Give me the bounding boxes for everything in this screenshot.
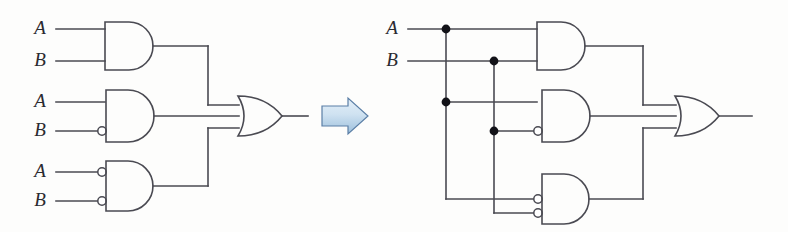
and-gate-shape [105, 22, 153, 70]
or-gate-shape [238, 96, 282, 136]
invert-bubble-icon [534, 127, 542, 135]
right-arrow-icon [322, 98, 368, 134]
invert-bubble-icon [98, 127, 106, 135]
left-gate-or [238, 96, 308, 136]
circuit-svg: A B A B A B [0, 0, 788, 232]
junction-dot [442, 98, 451, 107]
invert-bubble-icon [534, 195, 542, 203]
right-circuit: A B [384, 17, 752, 224]
and-gate-shape [542, 174, 589, 224]
and-gate-shape [106, 90, 154, 142]
left-input-label-a2: A [32, 90, 46, 111]
right-gate-and-2 [534, 90, 676, 142]
left-input-label-b3: B [34, 189, 46, 210]
invert-bubble-icon [534, 209, 542, 217]
and-gate-shape [542, 90, 590, 142]
left-gate-and-3 [56, 128, 239, 211]
left-input-label-b1: B [34, 49, 46, 70]
invert-bubble-icon [98, 168, 106, 176]
and-gate-shape [537, 22, 585, 70]
left-circuit: A B A B A B [32, 17, 308, 211]
arrow-glyph [322, 98, 368, 134]
left-gate-and-2 [56, 90, 239, 142]
left-input-label-b2: B [34, 119, 46, 140]
or-gate-shape [675, 96, 719, 136]
right-gate-or [675, 96, 752, 136]
right-gate-and-1 [537, 22, 676, 105]
invert-bubble-icon [98, 197, 106, 205]
right-input-label-b: B [386, 49, 398, 70]
junction-dot [490, 127, 499, 136]
left-gate-and-1 [56, 22, 239, 105]
junction-dot [442, 25, 451, 34]
left-input-label-a3: A [32, 160, 46, 181]
junction-dot [490, 57, 499, 66]
right-input-label-a: A [384, 17, 398, 38]
and-gate-shape [106, 161, 153, 211]
left-input-label-a1: A [32, 17, 46, 38]
logic-circuit-figure: A B A B A B [0, 0, 788, 232]
